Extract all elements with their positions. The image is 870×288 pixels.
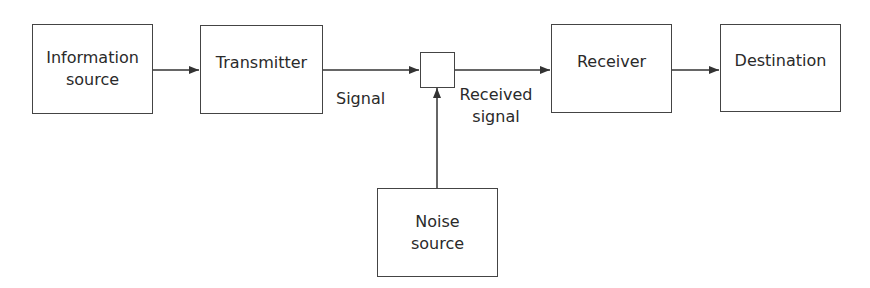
receiver-box: Receiver	[551, 24, 672, 113]
received-signal-label: Received signal	[456, 84, 536, 128]
destination-label: Destination	[735, 50, 827, 72]
information-source-box: Information source	[32, 24, 153, 114]
information-source-label-line1: Information	[46, 47, 139, 69]
noise-source-label-line1: Noise	[411, 211, 464, 233]
receiver-label: Receiver	[577, 51, 646, 73]
transmitter-box: Transmitter	[200, 25, 323, 114]
received-signal-line2: signal	[456, 106, 536, 128]
noise-source-label-line2: source	[411, 233, 464, 255]
noise-source-box: Noise source	[377, 188, 498, 277]
signal-label: Signal	[336, 88, 385, 110]
received-signal-line1: Received	[456, 84, 536, 106]
destination-box: Destination	[720, 24, 841, 112]
transmitter-label: Transmitter	[216, 52, 307, 74]
mixer-box	[420, 52, 455, 88]
information-source-label-line2: source	[46, 69, 139, 91]
